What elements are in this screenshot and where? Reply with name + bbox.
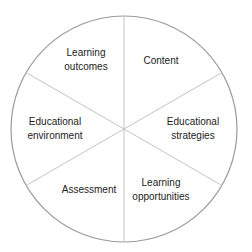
segment-learning-outcomes: Learning outcomes	[64, 47, 107, 72]
segment-label: Assessment	[62, 184, 117, 195]
segment-label: Content	[143, 55, 178, 66]
segment-label: Learning	[142, 177, 181, 188]
curriculum-circle-diagram: Learning outcomes Content Educational st…	[0, 0, 252, 252]
segment-label: environment	[27, 130, 82, 141]
segment-label: Educational	[29, 116, 81, 127]
segment-label: Educational	[167, 116, 219, 127]
segment-label: outcomes	[64, 61, 107, 72]
segment-label: Learning	[67, 47, 106, 58]
segment-educational-strategies: Educational strategies	[167, 116, 219, 141]
segment-educational-environment: Educational environment	[27, 116, 82, 141]
segment-content: Content	[143, 55, 178, 66]
segment-dividers	[26, 16, 222, 242]
segment-learning-opportunities: Learning opportunities	[132, 177, 189, 202]
segment-assessment: Assessment	[62, 184, 117, 195]
segment-label: strategies	[171, 130, 214, 141]
segment-label: opportunities	[132, 191, 189, 202]
